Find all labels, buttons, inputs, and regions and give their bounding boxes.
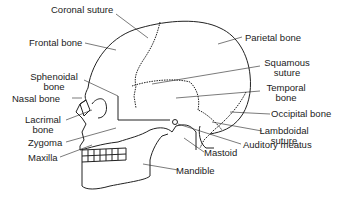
label-lacrimal-line2: bone bbox=[22, 125, 64, 135]
label-mandible: Mandible bbox=[176, 166, 215, 176]
nasal-bone-outline bbox=[80, 100, 90, 116]
zygomatic-arch bbox=[80, 125, 196, 150]
eye-socket bbox=[92, 99, 107, 118]
auditory-meatus-circle bbox=[173, 120, 178, 125]
label-squamous-suture: Squamous suture bbox=[262, 58, 312, 78]
label-zygoma: Zygoma bbox=[28, 138, 62, 148]
label-sphenoidal-bone: Sphenoidal bone bbox=[27, 72, 81, 92]
label-temporal-bone: Temporal bone bbox=[264, 83, 308, 103]
cranium-outline bbox=[88, 21, 251, 134]
label-maxilla: Maxilla bbox=[28, 153, 58, 163]
label-squamous-line2: suture bbox=[262, 68, 312, 78]
label-auditory-meatus: Auditory meatus bbox=[243, 140, 312, 150]
lambdoidal-suture-line bbox=[200, 92, 246, 148]
label-temporal-line2: bone bbox=[264, 93, 308, 103]
label-sphenoidal-line2: bone bbox=[27, 82, 81, 92]
label-frontal-bone: Frontal bone bbox=[29, 38, 82, 48]
coronal-suture-line bbox=[134, 22, 160, 108]
label-occipital-bone: Occipital bone bbox=[271, 109, 331, 119]
label-coronal-suture: Coronal suture bbox=[51, 5, 113, 15]
temporal-edge bbox=[118, 96, 170, 120]
label-mastoid: Mastoid bbox=[204, 148, 237, 158]
label-nasal-bone: Nasal bone bbox=[12, 94, 60, 104]
label-lacrimal-bone: Lacrimal bone bbox=[22, 115, 64, 135]
label-parietal-bone: Parietal bone bbox=[245, 33, 301, 43]
